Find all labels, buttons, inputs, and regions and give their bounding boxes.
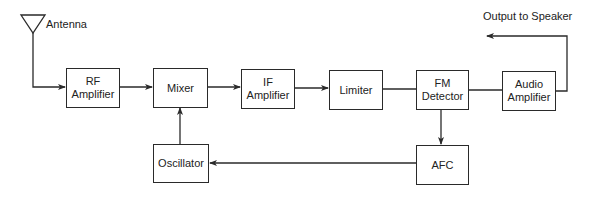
oscillator-block: Oscillator	[153, 144, 209, 183]
rf-amplifier-label: RF Amplifier	[72, 75, 115, 101]
audio-amplifier-block: Audio Amplifier	[502, 71, 556, 111]
limiter-block: Limiter	[329, 70, 383, 110]
mixer-label: Mixer	[167, 82, 194, 95]
oscillator-label: Oscillator	[158, 157, 204, 170]
output-label: Output to Speaker	[483, 10, 572, 22]
fm-receiver-diagram: Antenna Output to Speaker RF Amplifier M…	[0, 0, 591, 203]
limiter-label: Limiter	[339, 84, 372, 97]
fm-detector-block: FM Detector	[416, 70, 469, 110]
afc-block: AFC	[416, 145, 469, 185]
fm-detector-label: FM Detector	[422, 77, 464, 103]
rf-amplifier-block: RF Amplifier	[66, 68, 120, 108]
if-amplifier-block: IF Amplifier	[241, 69, 295, 109]
antenna-icon	[21, 15, 45, 33]
mixer-block: Mixer	[153, 68, 208, 108]
audio-amplifier-label: Audio Amplifier	[508, 78, 551, 104]
if-amplifier-label: IF Amplifier	[247, 76, 290, 102]
antenna-label: Antenna	[46, 18, 87, 30]
afc-label: AFC	[432, 159, 454, 172]
